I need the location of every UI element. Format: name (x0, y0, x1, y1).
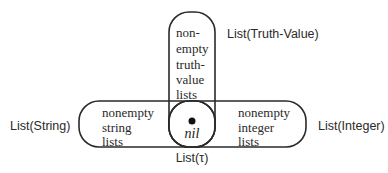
truth-value-label: List(Truth-Value) (227, 27, 319, 41)
nil-point-icon (189, 118, 196, 125)
integer-inner-line-3: lists (238, 134, 259, 149)
string-inner-line-2: string (102, 120, 132, 135)
tau-label: List(τ) (176, 151, 209, 165)
nil-label: nil (185, 126, 200, 141)
string-inner-line-1: nonempty (102, 105, 154, 120)
truth-inner-line-5: lists (176, 87, 197, 102)
string-label: List(String) (10, 119, 70, 133)
truth-inner-line-1: non- (176, 25, 200, 40)
integer-inner-line-1: nonempty (238, 105, 290, 120)
truth-inner-line-4: value (176, 72, 204, 87)
truth-inner-line-3: truth- (176, 57, 205, 72)
integer-inner-line-2: integer (238, 120, 275, 135)
integer-label: List(Integer) (318, 119, 385, 133)
type-diagram: nil non- empty truth- value lists nonemp… (0, 0, 388, 173)
string-inner-line-3: lists (102, 134, 123, 149)
truth-inner-line-2: empty (176, 41, 209, 56)
